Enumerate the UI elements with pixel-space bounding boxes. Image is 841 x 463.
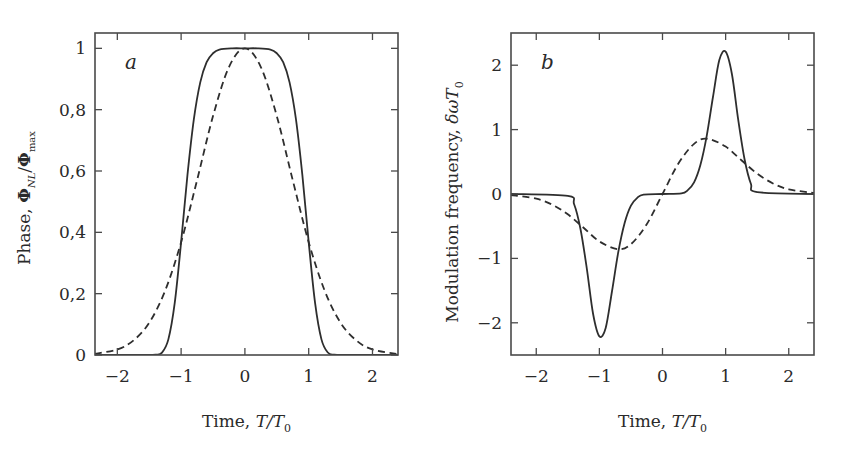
- x-tick-label: 0: [239, 366, 250, 386]
- axes-frame-a: [95, 33, 398, 355]
- y-axis-label-sub-nl: NL: [26, 172, 37, 189]
- y-tick-label: 0,2: [59, 284, 86, 304]
- x-tick-label: −2: [524, 366, 549, 386]
- figure: −2−101200,20,40,60,81 a Time, T/T0 Phase…: [0, 0, 841, 463]
- panel-label-a: a: [125, 50, 137, 74]
- x-tick-label: 1: [303, 366, 314, 386]
- y-tick-label: −1: [477, 248, 502, 268]
- y-tick-label: 0: [75, 345, 86, 365]
- x-tick-label: 1: [720, 366, 731, 386]
- x-axis-label-b: Time, T/T0: [618, 411, 707, 435]
- x-tick-label: 0: [657, 366, 668, 386]
- x-tick-label: −1: [169, 366, 194, 386]
- dashed-curve: [511, 139, 814, 250]
- x-axis-label-sub: 0: [284, 422, 291, 435]
- x-axis-label-var: T/T: [672, 411, 702, 431]
- y-axis-label-text: Modulation frequency,: [442, 124, 462, 323]
- y-axis-label-var: δωT: [442, 87, 462, 124]
- x-axis-label-var: T/T: [256, 411, 286, 431]
- ticks-b: −2−1012−2−1012: [477, 33, 814, 386]
- y-axis-label-phi-max: Φ: [14, 152, 34, 167]
- dashed-curve: [95, 48, 398, 354]
- plot-area-a: [95, 48, 398, 355]
- y-tick-label: 2: [491, 55, 502, 75]
- y-axis-label-sub-max: max: [26, 131, 37, 152]
- chart-panel-b: −2−1012−2−1012 b Time, T/T0 Modulation f…: [442, 33, 814, 435]
- y-tick-label: 0,4: [59, 222, 86, 242]
- y-axis-label-text: Phase,: [14, 203, 34, 265]
- x-axis-label-a: Time, T/T0: [202, 411, 291, 435]
- plot-area-b: [511, 51, 814, 337]
- y-axis-label-b: Modulation frequency, δωT0: [442, 81, 466, 322]
- y-tick-label: 0: [491, 184, 502, 204]
- ticks-a: −2−101200,20,40,60,81: [59, 33, 398, 386]
- x-axis-label-text: Time,: [202, 411, 256, 431]
- y-axis-label-phi: Φ: [14, 188, 34, 203]
- chart-panel-a: −2−101200,20,40,60,81 a Time, T/T0 Phase…: [14, 33, 398, 435]
- solid-curve: [95, 48, 398, 355]
- y-tick-label: 0,8: [59, 100, 86, 120]
- x-tick-label: −1: [587, 366, 612, 386]
- x-tick-label: 2: [783, 366, 794, 386]
- x-axis-label-text: Time,: [618, 411, 672, 431]
- y-tick-label: 1: [75, 38, 86, 58]
- panel-label-b: b: [541, 50, 554, 74]
- x-tick-label: 2: [367, 366, 378, 386]
- y-axis-label-a: Phase, ΦNL/Φmax: [14, 131, 37, 265]
- y-tick-label: 0,6: [59, 161, 86, 181]
- y-tick-label: −2: [477, 313, 502, 333]
- x-axis-label-sub: 0: [700, 422, 707, 435]
- x-tick-label: −2: [105, 366, 130, 386]
- y-tick-label: 1: [491, 120, 502, 140]
- y-axis-label-sub: 0: [453, 81, 466, 88]
